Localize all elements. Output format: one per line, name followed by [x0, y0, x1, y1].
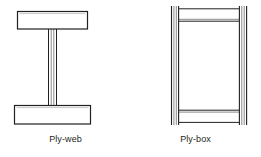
- ply-web-drawing: [0, 0, 131, 133]
- ply-box-top-flange: [174, 9, 244, 22]
- ply-web-bottom-flange: [15, 106, 91, 125]
- figure-ply-web: Ply-web: [0, 0, 131, 157]
- figure-caption-ply-web: Ply-web: [0, 133, 131, 145]
- figure-caption-ply-box: Ply-box: [130, 133, 261, 145]
- figure-ply-box: Ply-box: [130, 0, 261, 157]
- ply-box-drawing: [130, 0, 261, 133]
- ply-box-right-web: [239, 6, 247, 125]
- diagram-canvas: Ply-web: [0, 0, 261, 157]
- ply-web-top-flange: [18, 12, 88, 30]
- ply-box-bottom-flange: [174, 110, 244, 122]
- ply-web-web: [48, 28, 57, 106]
- ply-box-left-web: [171, 6, 179, 125]
